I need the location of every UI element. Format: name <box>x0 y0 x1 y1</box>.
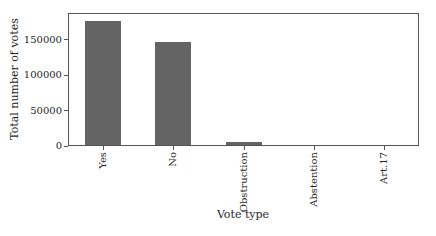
plot-area <box>68 13 419 146</box>
x-tick-mark <box>103 146 104 150</box>
x-tick-label-yes: Yes <box>97 152 109 169</box>
bar-obstruction <box>226 142 262 145</box>
x-axis-label: Vote type <box>217 208 269 221</box>
x-tick-label-abstention: Abstention <box>308 152 320 207</box>
y-tick-label-0: 0 <box>20 140 62 152</box>
bar-yes <box>85 21 121 146</box>
y-tick-label-150000: 150000 <box>20 34 62 46</box>
y-tick-mark <box>64 110 68 111</box>
y-tick-mark <box>64 39 68 40</box>
x-tick-mark <box>173 146 174 150</box>
x-tick-mark <box>314 146 315 150</box>
y-tick-mark <box>64 146 68 147</box>
x-tick-label-art-17: Art.17 <box>378 152 390 184</box>
x-tick-mark <box>384 146 385 150</box>
x-tick-label-no: No <box>167 152 179 167</box>
bar-chart-figure: Total number of votes YesNoObstructionAb… <box>0 0 436 236</box>
bar-no <box>155 42 191 145</box>
x-tick-label-obstruction: Obstruction <box>238 152 250 212</box>
y-tick-label-50000: 50000 <box>20 105 62 117</box>
y-tick-mark <box>64 75 68 76</box>
y-tick-label-100000: 100000 <box>20 69 62 81</box>
x-tick-mark <box>244 146 245 150</box>
